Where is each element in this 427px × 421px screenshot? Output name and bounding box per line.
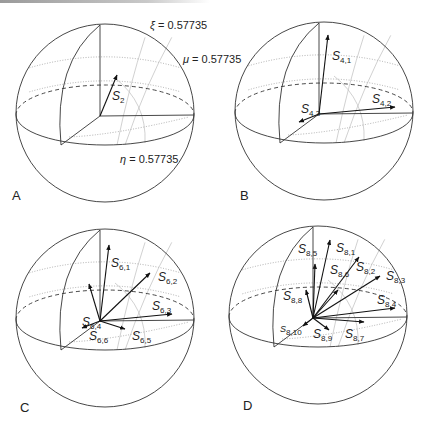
vector-s-8-9: S8,9 xyxy=(313,318,333,343)
vector-label: S6,3 xyxy=(152,299,172,315)
vector-label: S4,1 xyxy=(332,49,352,65)
panel-a: S2ξ = 0.57735μ = 0.57735η = 0.57735A xyxy=(12,19,241,203)
vector-label: S8,10 xyxy=(280,324,302,337)
equator-front xyxy=(16,320,194,350)
vector-s-8-10: S8,10 xyxy=(280,318,313,337)
vector-label: S8,4 xyxy=(377,293,397,309)
direction-cosine-label: ξ = 0.57735 xyxy=(150,19,207,32)
equator-front xyxy=(235,113,413,143)
vector-label: S8,6 xyxy=(330,263,350,279)
vector-label: S8,5 xyxy=(298,242,318,258)
vector-label: S8,9 xyxy=(313,327,333,343)
direction-cosine-label: μ = 0.57735 xyxy=(182,53,241,65)
vector-s-4-3: S4,3 xyxy=(299,102,321,122)
panel-b: S4,1S4,2S4,3B xyxy=(235,22,413,203)
vector-label: S4,3 xyxy=(301,102,321,118)
vector-label: S8,8 xyxy=(283,289,303,305)
vector-label: S6,1 xyxy=(111,256,131,272)
panel-label-d: D xyxy=(243,398,252,413)
vector-s-8-4: S8,4 xyxy=(313,293,397,318)
vector-label: S8,1 xyxy=(336,241,356,257)
panel-label-c: C xyxy=(20,400,29,415)
equator-back xyxy=(16,85,194,115)
vector-label: S6,2 xyxy=(158,270,178,286)
vector-label: S8,7 xyxy=(345,327,365,343)
sphere-outline xyxy=(16,229,194,407)
vector-label: S6,6 xyxy=(89,329,109,345)
vector-s-8-8: S8,8 xyxy=(283,289,313,318)
vector-s-4-1: S4,1 xyxy=(319,35,352,114)
quadrature-spheres-figure: S2ξ = 0.57735μ = 0.57735η = 0.57735AS4,1… xyxy=(0,0,427,421)
panel-d: S8,1S8,2S8,3S8,4S8,5S8,6S8,7S8,8S8,9S8,1… xyxy=(229,226,407,413)
sphere-outline xyxy=(16,24,194,202)
panel-label-a: A xyxy=(12,188,21,203)
equator-back xyxy=(235,83,413,113)
grid-lines xyxy=(248,35,408,143)
direction-cosine-label: η = 0.57735 xyxy=(120,153,178,165)
panel-c: S6,1S6,2S6,3S6,4S6,5S6,6C xyxy=(16,229,194,415)
grid-lines xyxy=(29,37,189,145)
grid-lines xyxy=(29,242,189,350)
panel-label-b: B xyxy=(240,188,249,203)
vector-s-8-1: S8,1 xyxy=(313,240,356,318)
sphere-outline xyxy=(235,22,413,200)
equator-front xyxy=(16,115,194,145)
vector-label: S4,2 xyxy=(372,92,392,108)
vector-s-8-5: S8,5 xyxy=(298,242,318,318)
vector-label: S2 xyxy=(112,89,125,105)
